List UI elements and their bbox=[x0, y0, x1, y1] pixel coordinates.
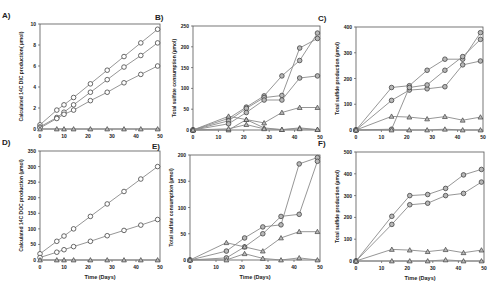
x-tick-label: 30 bbox=[109, 133, 115, 139]
data-point-circle bbox=[315, 74, 320, 79]
panel-label: D) bbox=[2, 138, 11, 147]
data-point-circle bbox=[55, 239, 60, 244]
data-point-triangle bbox=[478, 115, 483, 119]
panel-a-chart: A)024681001020304050Calculated 14C DIC p… bbox=[2, 11, 163, 139]
x-tick-label: 50 bbox=[481, 265, 487, 271]
series-circle-2 bbox=[38, 217, 160, 260]
x-tick-label: 20 bbox=[85, 133, 91, 139]
data-point-circle bbox=[315, 159, 320, 164]
x-tick-label: 0 bbox=[192, 134, 195, 140]
y-tick-label: 50 bbox=[180, 231, 186, 237]
data-point-circle bbox=[279, 214, 284, 219]
data-point-circle bbox=[226, 121, 231, 126]
series-circle-2 bbox=[38, 41, 160, 130]
data-point-circle bbox=[139, 223, 144, 228]
data-point-circle bbox=[62, 234, 67, 239]
y-axis-label: Calculated 14C DIC production( µmol) bbox=[18, 31, 24, 121]
data-point-circle bbox=[407, 85, 412, 90]
y-tick-label: 100 bbox=[344, 101, 353, 107]
x-tick-label: 30 bbox=[109, 264, 115, 270]
data-point-circle bbox=[71, 244, 76, 249]
series-triangle-1 bbox=[38, 258, 160, 262]
data-point-circle bbox=[122, 54, 127, 59]
data-point-circle bbox=[297, 76, 302, 81]
data-point-circle bbox=[62, 247, 67, 252]
data-point-circle bbox=[280, 74, 285, 79]
panel-c-chart: C)010020030040001020304050Total sulfide … bbox=[318, 14, 486, 140]
data-point-circle bbox=[62, 103, 67, 108]
y-axis-label: Total sulfate consumption (µmol) bbox=[171, 38, 177, 117]
data-point-circle bbox=[443, 57, 448, 62]
series-circle-1 bbox=[354, 30, 483, 132]
series-triangle-2 bbox=[354, 258, 484, 263]
x-tick-label: 0 bbox=[355, 134, 358, 140]
data-point-circle bbox=[105, 77, 110, 82]
x-tick-label: 10 bbox=[379, 265, 385, 271]
x-tick-label: 10 bbox=[216, 134, 222, 140]
x-tick-label: 40 bbox=[291, 264, 297, 270]
data-point-circle bbox=[55, 250, 60, 255]
y-tick-label: 100 bbox=[178, 205, 187, 211]
plot-frame bbox=[356, 152, 484, 261]
y-tick-label: 250 bbox=[28, 179, 37, 185]
y-tick-label: 200 bbox=[344, 76, 353, 82]
data-point-circle bbox=[460, 54, 465, 59]
y-tick-label: 10 bbox=[30, 21, 36, 27]
y-tick-label: 0 bbox=[349, 258, 352, 264]
x-tick-label: 10 bbox=[379, 134, 385, 140]
data-point-circle bbox=[224, 249, 229, 254]
data-point-circle bbox=[443, 84, 448, 89]
x-tick-label: 30 bbox=[266, 134, 272, 140]
data-point-circle bbox=[155, 41, 160, 46]
x-tick-label: 10 bbox=[61, 264, 67, 270]
data-point-circle bbox=[71, 227, 76, 232]
data-point-triangle bbox=[224, 240, 229, 244]
data-point-circle bbox=[389, 85, 394, 90]
data-point-circle bbox=[88, 239, 93, 244]
data-point-circle bbox=[461, 173, 466, 178]
data-point-circle bbox=[425, 83, 430, 88]
x-tick-label: 50 bbox=[157, 264, 163, 270]
data-point-circle bbox=[139, 177, 144, 182]
y-tick-label: 250 bbox=[181, 23, 190, 29]
panel-label: A) bbox=[2, 11, 11, 20]
x-tick-label: 40 bbox=[133, 264, 139, 270]
x-tick-label: 30 bbox=[265, 264, 271, 270]
y-tick-label: 150 bbox=[28, 210, 37, 216]
panel-e-chart: E)05010015020001020304050Total sulfate c… bbox=[152, 142, 323, 280]
panel-label: F) bbox=[318, 139, 326, 148]
y-tick-label: 4 bbox=[33, 84, 36, 90]
data-point-triangle bbox=[226, 114, 231, 118]
y-tick-label: 400 bbox=[344, 171, 353, 177]
series-circle-1 bbox=[354, 167, 484, 263]
y-tick-label: 150 bbox=[181, 65, 190, 71]
y-tick-label: 100 bbox=[28, 226, 37, 232]
data-point-circle bbox=[71, 95, 76, 100]
y-tick-label: 400 bbox=[344, 24, 353, 30]
data-point-circle bbox=[461, 191, 466, 196]
x-axis-label: Time (Days) bbox=[239, 274, 270, 280]
y-tick-label: 100 bbox=[344, 236, 353, 242]
data-point-circle bbox=[407, 193, 412, 198]
x-tick-label: 40 bbox=[455, 134, 461, 140]
y-tick-label: 200 bbox=[344, 214, 353, 220]
y-tick-label: 200 bbox=[181, 44, 190, 50]
data-point-circle bbox=[443, 68, 448, 73]
y-tick-label: 0 bbox=[33, 257, 36, 263]
data-point-circle bbox=[71, 103, 76, 108]
x-tick-label: 30 bbox=[429, 134, 435, 140]
data-point-circle bbox=[105, 202, 110, 207]
data-point-circle bbox=[261, 231, 266, 236]
y-tick-label: 200 bbox=[178, 152, 187, 158]
series-circle-2 bbox=[191, 36, 320, 132]
data-point-circle bbox=[390, 222, 395, 227]
x-tick-label: 0 bbox=[39, 264, 42, 270]
data-point-circle bbox=[261, 225, 266, 230]
y-tick-label: 200 bbox=[28, 195, 37, 201]
x-tick-label: 0 bbox=[355, 265, 358, 271]
data-point-circle bbox=[71, 108, 76, 113]
series-circle-1 bbox=[38, 27, 160, 127]
data-point-circle bbox=[155, 27, 160, 32]
y-tick-label: 6 bbox=[33, 63, 36, 69]
data-point-circle bbox=[460, 63, 465, 68]
